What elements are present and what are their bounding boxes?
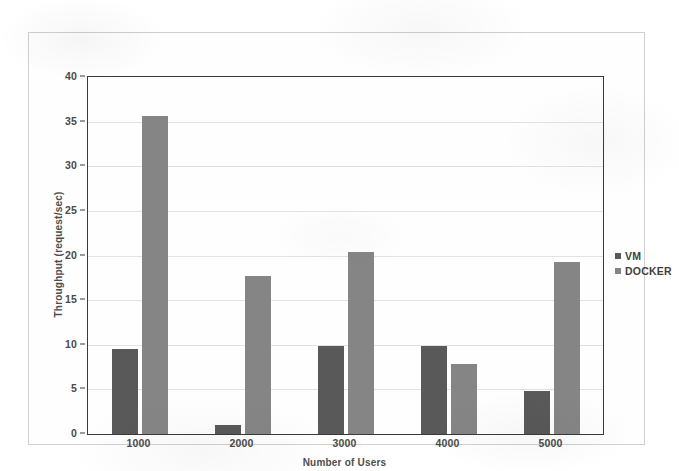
bar-vm-3000[interactable]	[318, 346, 344, 434]
y-axis-tick-label: 0	[71, 427, 77, 439]
y-axis-tick-label: 40	[65, 70, 77, 82]
y-axis-tick-mark	[80, 343, 85, 344]
x-axis-tick-label-2000: 2000	[190, 437, 293, 455]
y-axis-tick-mark	[80, 120, 85, 121]
y-axis-tick-label: 30	[65, 159, 77, 171]
y-axis-tick-label: 15	[65, 293, 77, 305]
y-axis-tick-mark	[80, 299, 85, 300]
legend-label: VM	[625, 250, 641, 262]
x-axis-tick-label-4000: 4000	[396, 437, 499, 455]
y-axis-tick-mark	[80, 388, 85, 389]
legend-item-docker[interactable]: DOCKER	[615, 265, 672, 277]
bar-group-3000	[294, 77, 397, 434]
y-axis-tick-mark	[80, 76, 85, 77]
y-axis: 0510152025303540	[29, 76, 85, 433]
chart-legend: VMDOCKER	[615, 250, 672, 280]
chart-outer-frame: Throughput (request/sec) 051015202530354…	[28, 32, 645, 445]
bar-group-5000	[500, 77, 603, 434]
plot-area	[87, 76, 604, 435]
x-axis-tick-label-3000: 3000	[293, 437, 396, 455]
bar-vm-2000[interactable]	[215, 425, 241, 434]
y-axis-tick-label: 25	[65, 204, 77, 216]
y-axis-tick-mark	[80, 165, 85, 166]
bar-vm-5000[interactable]	[524, 391, 550, 434]
bar-group-4000	[397, 77, 500, 434]
bar-vm-4000[interactable]	[421, 346, 447, 434]
bar-series-layer	[88, 77, 603, 434]
bar-docker-3000[interactable]	[348, 252, 374, 434]
legend-item-vm[interactable]: VM	[615, 250, 672, 262]
bar-group-1000	[88, 77, 191, 434]
x-axis-tick-label-5000: 5000	[499, 437, 602, 455]
y-axis-tick-mark	[80, 254, 85, 255]
bar-docker-1000[interactable]	[142, 116, 168, 434]
x-axis-tick-label-1000: 1000	[87, 437, 190, 455]
bar-group-2000	[191, 77, 294, 434]
bar-docker-5000[interactable]	[554, 262, 580, 434]
legend-swatch-vm-icon	[615, 253, 621, 259]
y-axis-tick-label: 20	[65, 249, 77, 261]
x-axis-title: Number of Users	[87, 457, 602, 468]
legend-swatch-docker-icon	[615, 268, 621, 274]
bar-vm-1000[interactable]	[112, 349, 138, 434]
y-axis-tick-label: 35	[65, 115, 77, 127]
bar-docker-4000[interactable]	[451, 364, 477, 434]
y-axis-tick-label: 10	[65, 338, 77, 350]
y-axis-tick-label: 5	[71, 382, 77, 394]
y-axis-tick-mark	[80, 433, 85, 434]
bar-docker-2000[interactable]	[245, 276, 271, 434]
legend-label: DOCKER	[625, 265, 672, 277]
x-axis-tick-labels: 10002000300040005000	[87, 437, 602, 455]
y-axis-tick-mark	[80, 209, 85, 210]
